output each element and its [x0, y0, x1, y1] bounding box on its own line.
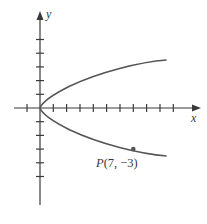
- y-axis-arrow-icon: [37, 11, 44, 20]
- point-p-label: P(7, −3): [95, 156, 138, 170]
- x-axis-label: x: [190, 111, 197, 125]
- point-p: [131, 147, 136, 152]
- parabola-chart: y x P(7, −3): [0, 0, 207, 224]
- y-axis-label: y: [45, 7, 52, 21]
